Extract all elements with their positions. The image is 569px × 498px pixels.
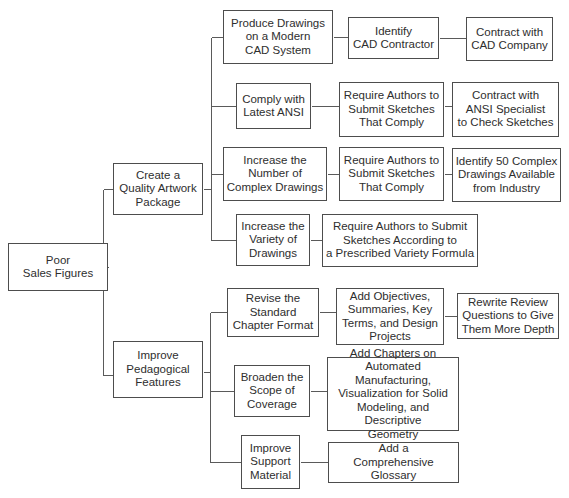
node-identify-cad-contractor: Identify CAD Contractor (348, 17, 439, 59)
node-comply-latest-ansi: Comply with Latest ANSI (236, 83, 311, 129)
node-produce-drawings-cad: Produce Drawings on a Modern CAD System (223, 10, 333, 64)
node-broaden-scope: Broaden the Scope of Coverage (234, 365, 310, 417)
node-quality-artwork-package: Create a Quality Artwork Package (113, 163, 203, 215)
node-improve-pedagogical-features: Improve Pedagogical Features (113, 341, 203, 398)
node-require-authors-comply-2: Require Authors to Submit Sketches That … (339, 147, 444, 201)
node-require-authors-comply-1: Require Authors to Submit Sketches That … (339, 82, 444, 137)
node-contract-ansi-specialist: Contract with ANSI Specialist to Check S… (452, 82, 559, 137)
node-contract-cad-company: Contract with CAD Company (466, 17, 553, 61)
node-add-chapters: Add Chapters on Automated Manufacturing,… (327, 357, 459, 431)
node-add-glossary: Add a Comprehensive Glossary (328, 442, 459, 483)
node-increase-number-complex: Increase the Number of Complex Drawings (223, 147, 327, 201)
tree-diagram: Poor Sales Figures Create a Quality Artw… (0, 0, 569, 498)
node-add-objectives: Add Objectives, Summaries, Key Terms, an… (336, 288, 444, 345)
node-increase-variety: Increase the Variety of Drawings (236, 214, 310, 266)
node-revise-chapter-format: Revise the Standard Chapter Format (227, 288, 319, 337)
node-rewrite-review-questions: Rewrite Review Questions to Give Them Mo… (457, 293, 559, 339)
node-poor-sales-figures: Poor Sales Figures (8, 243, 108, 291)
node-identify-50-complex: Identify 50 Complex Drawings Available f… (452, 148, 561, 202)
node-require-variety-formula: Require Authors to Submit Sketches Accor… (322, 214, 478, 267)
node-improve-support-material: Improve Support Material (241, 435, 300, 489)
